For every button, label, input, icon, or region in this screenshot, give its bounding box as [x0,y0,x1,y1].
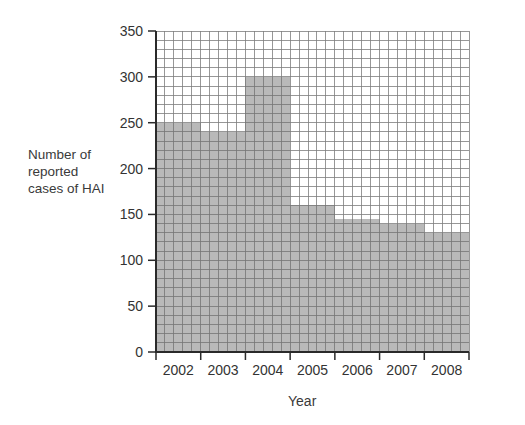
x-tick-label-2008: 2008 [431,362,462,378]
x-tick-label-2005: 2005 [297,362,328,378]
x-axis: 2002200320042005200620072008 [156,352,469,378]
bar-2008 [424,233,469,352]
y-tick-label: 50 [127,298,143,314]
x-tick-label-2003: 2003 [207,362,238,378]
y-tick-label: 0 [135,344,143,360]
hai-frequency-chart: 3503002502001501005002002200320042005200… [0,0,525,425]
x-axis-title: Year [288,393,316,409]
y-tick-label: 350 [120,23,144,39]
x-tick-label-2002: 2002 [163,362,194,378]
bar-2002 [156,123,201,352]
y-tick-label: 200 [120,161,144,177]
x-tick-label-2004: 2004 [252,362,283,378]
y-tick-label: 150 [120,206,144,222]
y-axis: 350300250200150100500 [120,23,156,360]
x-tick-label-2007: 2007 [386,362,417,378]
chart-page: Number of reported cases of HAI 35030025… [0,0,525,425]
y-tick-label: 100 [120,252,144,268]
x-tick-label-2006: 2006 [342,362,373,378]
y-tick-label: 250 [120,115,144,131]
y-tick-label: 300 [120,69,144,85]
bar-2006 [335,219,380,352]
